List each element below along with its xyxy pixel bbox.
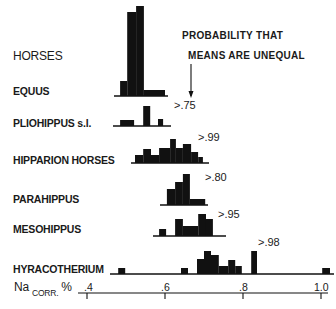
series-label-pliohippus: PLIOHIPPUS s.l.: [13, 117, 91, 129]
x-tick-label-0: .4: [84, 281, 93, 293]
histogram-mesohippus: [153, 214, 226, 236]
x-tick-label-1: .6: [161, 281, 170, 293]
annotation-line1: PROBABILITY THAT: [182, 30, 283, 41]
probability-parahippus: >.80: [205, 171, 227, 183]
probability-pliohippus: >.75: [174, 99, 196, 111]
histogram-bar: [183, 144, 191, 163]
histogram-bar: [170, 139, 176, 163]
histogram-bar: [197, 259, 204, 274]
series-label-hyracotherium: HYRACOTHERIUM: [13, 263, 104, 275]
histogram-bar: [143, 106, 150, 126]
histogram-hyracotherium: [110, 251, 334, 274]
x-axis-label-sub: CORR.: [32, 288, 58, 298]
histogram-bar: [181, 268, 188, 274]
histogram-bar: [135, 155, 143, 163]
histogram-bar: [167, 189, 175, 205]
x-axis-label: NaCORR.%: [14, 280, 72, 294]
histogram-bar: [151, 155, 159, 163]
series-label-parahippus: PARAHIPPUS: [13, 193, 79, 205]
x-tick-label-3: 1.0: [314, 281, 329, 293]
histogram-bar: [158, 119, 163, 126]
histogram-bar: [206, 219, 213, 236]
probability-hyracotherium: >.98: [258, 236, 280, 248]
annotation-line2: MEANS ARE UNEQUAL: [188, 50, 305, 61]
histogram-bar: [235, 266, 242, 274]
histogram-pliohippus-s-l: [113, 106, 171, 126]
histogram-bar: [143, 149, 151, 163]
series-label-mesohippus: MESOHIPPUS: [13, 223, 81, 235]
histogram-bar: [136, 6, 144, 96]
histogram-bar: [120, 81, 127, 96]
histogram-bar: [183, 174, 190, 205]
histogram-bar: [159, 229, 166, 236]
histogram-bar: [198, 214, 206, 236]
x-axis: [78, 293, 328, 299]
histogram-bar: [175, 182, 183, 205]
horses-header: HORSES: [13, 49, 62, 63]
histogram-bar: [183, 226, 198, 236]
x-tick-label-2: .8: [239, 281, 248, 293]
histogram-bar: [190, 199, 205, 205]
histogram-equus: [114, 6, 168, 96]
histogram-bar: [322, 268, 330, 274]
series-label-hipparion: HIPPARION HORSES: [13, 154, 115, 166]
x-axis-label-main: Na: [14, 280, 29, 294]
histogram-bar: [191, 152, 198, 163]
histogram-bar: [219, 266, 228, 274]
annotation-arrow-icon: [189, 64, 194, 98]
histogram-parahippus: [160, 174, 208, 205]
series-label-equus: EQUUS: [13, 85, 49, 97]
histogram-bar: [175, 219, 183, 236]
probability-hipparion: >.99: [198, 131, 220, 143]
histogram-bar: [127, 12, 136, 96]
histogram-bar: [211, 255, 219, 274]
histogram-bar: [228, 260, 235, 274]
histogram-bar: [251, 251, 257, 274]
histogram-bar: [118, 268, 125, 274]
histogram-bar: [159, 148, 170, 163]
histogram-bar: [204, 251, 211, 274]
histogram-bar: [144, 90, 165, 96]
probability-mesohippus: >.95: [218, 208, 240, 220]
histogram-bar: [120, 120, 134, 126]
histogram-bar: [176, 148, 183, 163]
x-axis-label-unit: %: [61, 280, 71, 294]
histogram-bar: [198, 157, 203, 163]
